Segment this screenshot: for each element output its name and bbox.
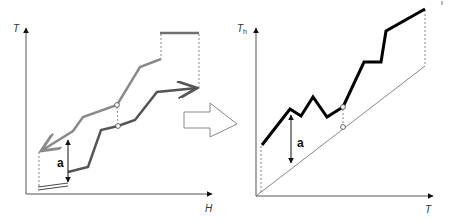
right-y-axis-label: Th: [237, 23, 247, 35]
right-pinch-point-diagonal: [341, 125, 346, 130]
right-chart: Th T a: [237, 1, 442, 215]
left-a-label: a: [57, 156, 64, 170]
left-y-axis-label: T: [13, 23, 20, 34]
pinch-diagram: T H a Th T: [0, 0, 451, 222]
right-pinch-point-curve: [341, 105, 346, 110]
left-x-axis-label: H: [205, 203, 213, 214]
cold-composite-curve: [68, 88, 197, 172]
left-chart: T H a: [13, 23, 213, 214]
right-a-label: a: [297, 136, 304, 150]
right-x-axis-label: T: [425, 204, 432, 215]
diagonal-reference-line: [256, 66, 425, 196]
left-pinch-dash: [117, 107, 118, 124]
transition-arrow-icon: [184, 103, 237, 137]
left-pinch-point-hot: [115, 103, 120, 108]
left-pinch-point-cold: [116, 124, 121, 129]
right-y-axis-label-subscript: h: [243, 28, 247, 35]
hot-composite-curve: [41, 59, 161, 151]
